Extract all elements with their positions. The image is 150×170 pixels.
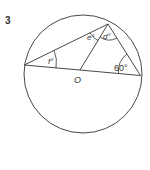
angle-label-e: e° [87,33,95,42]
angle-label-60: 60° [114,63,128,73]
circle-geometry-diagram: f° e° d° 60° O [0,0,150,170]
angle-label-f: f° [48,57,54,66]
angle-arc-f [54,51,57,69]
center-label-o: O [74,75,81,85]
angle-label-d: d° [103,32,111,41]
